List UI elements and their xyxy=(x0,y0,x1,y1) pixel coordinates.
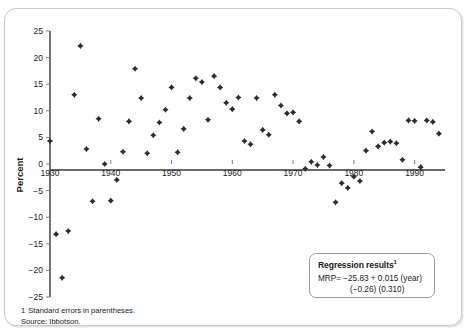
data-point xyxy=(235,94,241,100)
data-point xyxy=(89,198,95,204)
data-point xyxy=(223,100,229,106)
y-tick-label: −15 xyxy=(29,239,44,249)
data-point xyxy=(132,66,138,72)
regression-box-title-superscript: 1 xyxy=(394,259,397,265)
data-point xyxy=(59,275,65,281)
y-tick-label: −10 xyxy=(29,212,44,222)
data-point xyxy=(284,110,290,116)
y-tick-label: 15 xyxy=(34,79,44,89)
data-point xyxy=(175,149,181,155)
y-tick-label: 25 xyxy=(34,26,44,36)
data-point xyxy=(187,95,193,101)
data-point xyxy=(156,119,162,125)
data-point xyxy=(120,149,126,155)
data-point xyxy=(71,92,77,98)
data-point xyxy=(302,166,308,172)
data-point xyxy=(162,107,168,113)
data-point xyxy=(339,180,345,186)
source-line: Source: Ibbotson. xyxy=(21,316,321,327)
data-point xyxy=(326,162,332,168)
figure-panel: 2520151050−5−10−15−20−25 193019401950196… xyxy=(4,8,462,326)
data-point xyxy=(205,117,211,123)
data-point xyxy=(150,132,156,138)
data-point xyxy=(199,79,205,85)
data-point xyxy=(193,75,199,81)
x-tick-group: 1930194019501960197019801990 xyxy=(41,160,425,178)
data-point xyxy=(424,117,430,123)
data-point xyxy=(181,126,187,132)
data-point xyxy=(430,119,436,125)
data-point-group xyxy=(47,43,442,281)
data-point xyxy=(393,140,399,146)
y-tick-label: −5 xyxy=(33,186,43,196)
data-point xyxy=(399,157,405,163)
data-point xyxy=(65,228,71,234)
data-point xyxy=(345,185,351,191)
data-point xyxy=(211,73,217,79)
data-point xyxy=(47,138,53,144)
data-point xyxy=(387,139,393,145)
regression-box-title-text: Regression results xyxy=(318,260,394,270)
y-tick-label: 10 xyxy=(34,106,44,116)
y-tick-label: −20 xyxy=(29,265,44,275)
footnote-line: 1Standard errors in parentheses. xyxy=(21,305,321,316)
data-point xyxy=(381,140,387,146)
data-point xyxy=(308,159,314,165)
x-tick-label: 1950 xyxy=(162,168,181,178)
data-point xyxy=(375,143,381,149)
regression-box-title: Regression results1 xyxy=(318,259,427,270)
data-point xyxy=(83,146,89,152)
x-tick-label: 1960 xyxy=(223,168,242,178)
x-tick-label: 1990 xyxy=(405,168,424,178)
footnote-block: 1Standard errors in parentheses. Source:… xyxy=(21,305,321,327)
data-point xyxy=(247,141,253,147)
data-point xyxy=(278,102,284,108)
y-tick-label: 5 xyxy=(38,132,43,142)
y-tick-label: 20 xyxy=(34,53,44,63)
data-point xyxy=(168,84,174,90)
data-point xyxy=(333,199,339,205)
x-tick-label: 1970 xyxy=(284,168,303,178)
data-point xyxy=(144,150,150,156)
data-point xyxy=(272,92,278,98)
data-point xyxy=(357,178,363,184)
data-point xyxy=(290,109,296,115)
y-tick-group: 2520151050−5−10−15−20−25 xyxy=(29,26,50,302)
data-point xyxy=(126,118,132,124)
x-tick-label: 1940 xyxy=(101,168,120,178)
data-point xyxy=(405,117,411,123)
regression-results-box: Regression results1 MRP= −25.83 + 0.015 … xyxy=(309,253,435,298)
data-point xyxy=(102,161,108,167)
data-point xyxy=(217,84,223,90)
data-point xyxy=(363,148,369,154)
data-point xyxy=(266,132,272,138)
regression-standard-errors: (−0.26) (0.310) xyxy=(318,285,427,295)
data-point xyxy=(254,95,260,101)
data-point xyxy=(412,118,418,124)
data-point xyxy=(369,128,375,134)
y-tick-label: −25 xyxy=(29,292,44,302)
data-point xyxy=(229,106,235,112)
data-point xyxy=(296,118,302,124)
data-point xyxy=(320,154,326,160)
data-point xyxy=(436,131,442,137)
regression-equation: MRP= −25.83 + 0.015 (year) xyxy=(318,274,427,284)
data-point xyxy=(314,162,320,168)
data-point xyxy=(96,116,102,122)
x-tick-label: 1930 xyxy=(41,168,60,178)
y-axis-title: Percent xyxy=(14,157,25,193)
footnote-text: Standard errors in parentheses. xyxy=(28,306,135,315)
data-point xyxy=(108,198,114,204)
data-point xyxy=(260,127,266,133)
data-point xyxy=(77,43,83,49)
data-point xyxy=(138,95,144,101)
data-point xyxy=(53,231,59,237)
data-point xyxy=(241,138,247,144)
